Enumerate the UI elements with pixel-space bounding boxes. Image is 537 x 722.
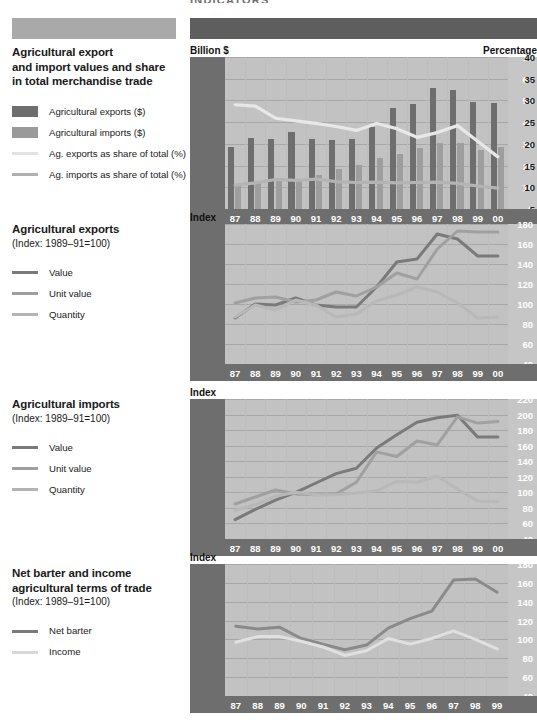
x-axis-tick-label: 88 [252,700,263,711]
data-line [235,105,498,157]
x-axis: 8788899091929394959697989900 [190,364,537,381]
legend-item[interactable]: Value [12,437,190,458]
section-subtitle: (Index: 1989–91=100) [12,237,190,250]
y-axis-tick-label: 220 [517,395,533,404]
x-axis-tick-label: 97 [448,700,459,711]
x-axis-tick-label: 87 [230,368,241,379]
x-axis-tick-label: 90 [290,368,301,379]
y-axis-caption: Index [190,211,216,224]
section-title-line: Agricultural export [12,45,190,60]
legend-item[interactable]: Agricultural imports ($) [12,122,190,143]
x-axis-tick-label: 89 [270,368,281,379]
x-axis-tick-label: 93 [361,700,372,711]
data-line [235,476,498,510]
plot-area [225,57,508,209]
legend-swatch-line-icon [12,488,38,491]
line-series-layer [225,399,508,539]
clipped-header-title: INDICATORS [190,0,537,3]
legend-label: Quantity [49,484,85,495]
legend-label: Unit value [49,463,92,474]
y-axis-tick-label: 80 [522,503,533,512]
y2-axis-tick-label: 20 [524,139,535,148]
legend-swatch-line-icon [12,152,38,155]
y-axis-tick-label: 100 [517,300,533,309]
section-panel-exports-imports: Agricultural exportand import values and… [12,45,190,185]
chart-legend: ValueUnit valueQuantity [12,262,190,325]
y2-axis-tick-label: 35 [524,74,535,83]
x-axis-tick-label: 87 [231,700,242,711]
x-axis-tick-label: 88 [250,368,261,379]
x-axis-tick-label: 92 [339,700,350,711]
y-axis-tick-label: 140 [517,597,533,606]
data-line [236,579,497,650]
legend-label: Ag. exports as share of total (%) [49,148,186,159]
y-axis-tick-label: 60 [522,340,533,349]
axis-caption-row: Index [190,211,537,224]
plot-area [225,399,508,539]
section-panel-ag-exports: Agricultural exports(Index: 1989–91=100)… [12,222,190,325]
legend-item[interactable]: Agricultural exports ($) [12,101,190,122]
legend-item[interactable]: Unit value [12,283,190,304]
y2-axis-tick-label: 40 [524,53,535,62]
section-panel-ag-imports: Agricultural imports(Index: 1989–91=100)… [12,397,190,500]
legend-swatch-box-icon [12,127,38,138]
legend-item[interactable]: Net barter [12,620,190,641]
section-subtitle: (Index: 1989–91=100) [12,412,190,425]
legend-swatch-line-icon [12,651,38,654]
plot-area [225,564,508,696]
y-axis-tick-label: 100 [517,635,533,644]
chart-legend: Agricultural exports ($)Agricultural imp… [12,101,190,185]
x-axis-tick-label: 91 [318,700,329,711]
legend-item[interactable]: Quantity [12,479,190,500]
header-bar-right [190,18,537,39]
section-title-line: Agricultural imports [12,397,190,412]
legend-item[interactable]: Value [12,262,190,283]
chart-exports-imports-bar: Billion $Percentage010203040506070510152… [190,44,537,226]
legend-item[interactable]: Income [12,641,190,662]
legend-item[interactable]: Unit value [12,458,190,479]
legend-item[interactable]: Ag. imports as share of total (%) [12,164,190,185]
chart-ag-imports-index: Index40608010012014016018020022087888990… [190,386,537,556]
legend-label: Agricultural imports ($) [49,127,146,138]
x-axis-tick-label: 93 [351,368,362,379]
y-axis-tick-label: 180 [517,560,533,569]
y-axis-tick-label: 60 [522,519,533,528]
legend-swatch-line-icon [12,173,38,176]
x-axis-tick-label: 94 [383,700,394,711]
y-axis-tick-label: 120 [517,280,533,289]
x-axis: 87888990919293949596979899 [190,696,537,713]
plot-area-wrapper: 406080100120140160180200220 [190,399,537,539]
x-axis-tick-label: 99 [472,368,483,379]
y-axis-tick-label: 160 [517,240,533,249]
legend-swatch-box-icon [12,106,38,117]
x-axis-tick-label: 96 [412,368,423,379]
legend-label: Value [49,267,73,278]
x-axis-tick-label: 98 [470,700,481,711]
legend-label: Ag. imports as share of total (%) [49,169,186,180]
legend-swatch-line-icon [12,292,38,295]
legend-item[interactable]: Quantity [12,304,190,325]
x-axis-tick-label: 95 [392,368,403,379]
legend-label: Value [49,442,73,453]
data-line [235,179,498,188]
y2-axis-tick-label: 25 [524,118,535,127]
section-title-line: Net barter and income [12,566,190,581]
y-axis-caption: Billion $ [190,44,229,57]
y2-axis-tick-label: 30 [524,96,535,105]
legend-label: Net barter [49,625,92,636]
x-axis-tick-label: 99 [492,700,503,711]
legend-label: Income [49,646,80,657]
section-title-line: in total merchandise trade [12,74,190,89]
x-axis-tick-label: 91 [311,368,322,379]
legend-label: Unit value [49,288,92,299]
y-axis-tick-label: 120 [517,472,533,481]
x-axis-tick-label: 90 [296,700,307,711]
y2-axis-tick-label: 10 [524,183,535,192]
legend-swatch-line-icon [12,271,38,274]
y-axis-caption: Index [190,386,216,399]
y-axis-tick-label: 80 [522,654,533,663]
legend-item[interactable]: Ag. exports as share of total (%) [12,143,190,164]
y-axis-tick-label: 180 [517,220,533,229]
line-series-layer [225,564,508,696]
x-axis-tick-label: 95 [405,700,416,711]
